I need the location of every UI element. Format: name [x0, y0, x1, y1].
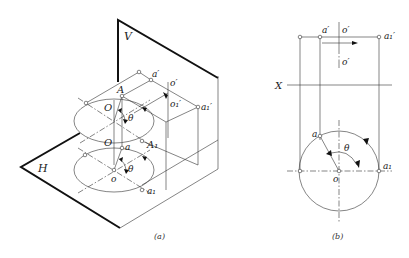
x-axis-label: X	[274, 80, 283, 91]
label-b-a: a	[312, 129, 317, 139]
label-a1-prime: a₁′	[201, 102, 212, 112]
label-b-theta: θ	[344, 143, 350, 153]
label-theta-upper: θ	[128, 113, 134, 123]
label-A1: A₁	[146, 139, 158, 150]
label-o-prime: o′	[170, 78, 177, 88]
label-a-prime: a′	[152, 69, 159, 79]
point-a1-prime	[196, 105, 200, 109]
label-a: a	[125, 142, 130, 152]
figure-a: V H	[21, 20, 218, 241]
figure-b: X a′ o′ o′ a₁′ a θ o a₁ (b)	[274, 22, 395, 241]
point-a-prime-back	[137, 70, 141, 74]
label-o1-prime: o₁′	[170, 99, 181, 109]
label-a1: a₁	[147, 186, 156, 196]
label-o: o	[111, 174, 117, 184]
label-O-upper: O	[104, 102, 112, 113]
label-b-o-prime-top: o′	[342, 25, 349, 35]
label-b-a1-prime: a₁′	[384, 31, 395, 41]
v-plane-label: V	[124, 30, 133, 43]
label-b-a1: a₁	[383, 161, 392, 171]
label-theta-lower: θ	[128, 164, 134, 174]
label-O-lower: O	[104, 137, 112, 148]
caption-b: (b)	[332, 232, 343, 241]
caption-a: (a)	[154, 232, 165, 241]
projection-lines	[86, 72, 218, 190]
label-b-o: o	[333, 174, 339, 184]
label-b-o-prime-bottom: o′	[342, 57, 349, 67]
h-plane	[21, 133, 218, 228]
h-plane-label: H	[37, 162, 48, 175]
label-b-a-prime: a′	[322, 25, 329, 35]
diagram-canvas: V H	[0, 0, 409, 258]
label-A: A	[116, 84, 124, 95]
